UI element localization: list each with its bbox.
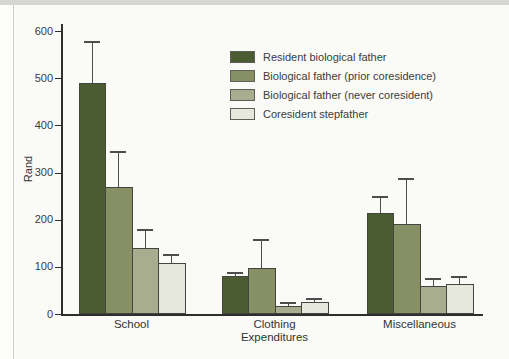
error-bar-cap — [398, 178, 414, 180]
error-bar-cap — [253, 239, 269, 241]
bar-clothing-s3 — [275, 306, 303, 314]
bar-miscellaneous-s2 — [393, 224, 421, 314]
error-bar-cap — [306, 298, 322, 300]
y-axis-tick — [55, 78, 61, 79]
error-bar-cap — [137, 229, 153, 231]
bar-miscellaneous-s1 — [367, 213, 395, 314]
y-axis-tick — [55, 267, 61, 268]
scan-page-margin — [0, 0, 13, 359]
legend-swatch — [230, 51, 255, 63]
bar-clothing-s1 — [222, 276, 250, 314]
legend-label: Biological father (never coresident) — [263, 89, 433, 101]
y-axis-tick — [55, 31, 61, 32]
error-bar-cap — [227, 272, 243, 274]
legend-item: Biological father (prior coresidence) — [230, 70, 436, 82]
legend-swatch — [230, 108, 255, 120]
legend-item: Biological father (never coresident) — [230, 89, 436, 101]
error-bar-line — [380, 196, 381, 213]
scan-top-strip — [0, 0, 509, 5]
x-category-label: Clothing — [215, 318, 335, 330]
x-axis-title: Expenditures — [214, 331, 335, 343]
error-bar-line — [261, 239, 262, 268]
y-axis-line — [61, 24, 63, 316]
y-axis-tick — [55, 173, 61, 174]
error-bar-line — [406, 178, 407, 224]
bar-miscellaneous-s3 — [420, 286, 448, 314]
y-tick-label: 600 — [21, 25, 53, 38]
y-axis-tick — [55, 125, 61, 126]
error-bar-cap — [280, 302, 296, 304]
y-tick-label: 400 — [21, 119, 53, 132]
y-tick-label: 500 — [21, 72, 53, 85]
y-tick-label: 100 — [21, 260, 53, 273]
y-tick-label: 0 — [21, 308, 53, 321]
y-tick-label: 200 — [21, 213, 53, 226]
y-axis-tick — [55, 220, 61, 221]
bar-chart-figure: Rand Expenditures 0100200300400500600Sch… — [0, 0, 509, 359]
bar-miscellaneous-s4 — [446, 284, 474, 314]
error-bar-cap — [372, 196, 388, 198]
legend-swatch — [230, 89, 255, 101]
bar-clothing-s4 — [301, 302, 329, 314]
scan-page-edge-line — [13, 0, 14, 359]
x-category-label: Miscellaneous — [360, 318, 480, 330]
legend-item: Resident biological father — [230, 51, 436, 63]
error-bar-cap — [84, 41, 100, 43]
y-axis-tick — [55, 314, 61, 315]
legend-item: Coresident stepfather — [230, 108, 436, 120]
error-bar-cap — [110, 151, 126, 153]
legend: Resident biological fatherBiological fat… — [230, 51, 436, 127]
x-category-label: School — [72, 318, 192, 330]
bar-school-s3 — [132, 248, 160, 314]
y-tick-label: 300 — [21, 166, 53, 179]
bar-school-s1 — [79, 83, 107, 314]
x-axis-line — [61, 314, 483, 316]
error-bar-line — [118, 151, 119, 186]
bar-clothing-s2 — [248, 268, 276, 314]
legend-swatch — [230, 70, 255, 82]
legend-label: Resident biological father — [263, 51, 387, 63]
legend-label: Biological father (prior coresidence) — [263, 70, 436, 82]
bar-school-s2 — [105, 187, 133, 314]
error-bar-cap — [451, 276, 467, 278]
error-bar-line — [145, 229, 146, 248]
error-bar-line — [92, 41, 93, 83]
error-bar-cap — [163, 254, 179, 256]
bar-school-s4 — [158, 263, 186, 314]
legend-label: Coresident stepfather — [263, 108, 368, 120]
error-bar-cap — [425, 278, 441, 280]
